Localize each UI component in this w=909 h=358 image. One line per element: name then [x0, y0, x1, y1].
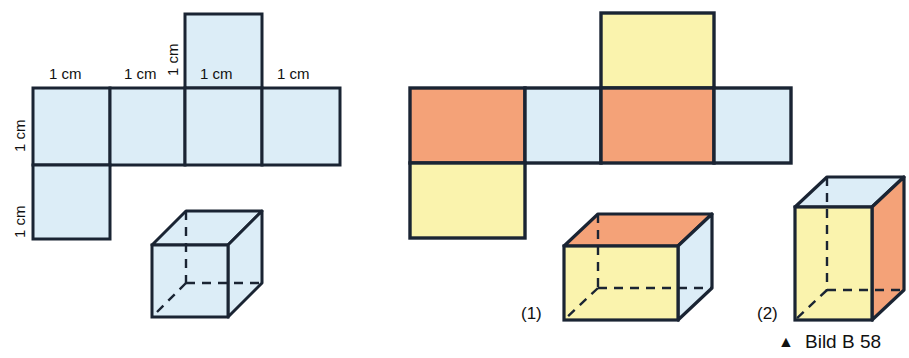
dimension-label-left-2: 1 cm	[12, 205, 27, 238]
net-face-bottom	[33, 165, 110, 239]
cuboid-net-colored	[410, 13, 791, 238]
net-face-right	[714, 88, 791, 163]
cuboid-2-front-face	[795, 207, 872, 320]
dimension-label-top-1: 1 cm	[49, 66, 82, 81]
net-face-top	[601, 13, 714, 88]
net-face-middle-left	[525, 88, 601, 163]
cube-blue	[152, 211, 262, 317]
net-face-right	[262, 88, 340, 165]
net-face-bottom	[410, 163, 525, 238]
net-face-middle-right	[601, 88, 714, 163]
cuboid-1-index-label: (1)	[521, 305, 542, 322]
dimension-label-top-square: 1 cm	[165, 43, 180, 76]
net-face-middle-right	[185, 88, 262, 165]
net-face-left	[410, 88, 525, 163]
cuboid-2-index-label: (2)	[757, 305, 778, 322]
cuboid-1	[564, 214, 712, 320]
caption-marker-icon: ▲	[778, 334, 794, 350]
caption-text: Bild B 58	[805, 332, 881, 351]
figure-canvas: 1 cm 1 cm 1 cm 1 cm 1 cm 1 cm 1 cm (1) (…	[0, 0, 909, 358]
cube-net-blue	[33, 14, 340, 239]
dimension-label-left-1: 1 cm	[12, 119, 27, 152]
cuboid-1-front-face	[564, 246, 678, 320]
net-face-middle-left	[110, 88, 185, 165]
dimension-label-top-4: 1 cm	[277, 66, 310, 81]
dimension-label-top-2: 1 cm	[124, 66, 157, 81]
cuboid-2	[795, 177, 904, 320]
dimension-label-top-3: 1 cm	[200, 66, 233, 81]
net-face-left	[33, 88, 110, 165]
